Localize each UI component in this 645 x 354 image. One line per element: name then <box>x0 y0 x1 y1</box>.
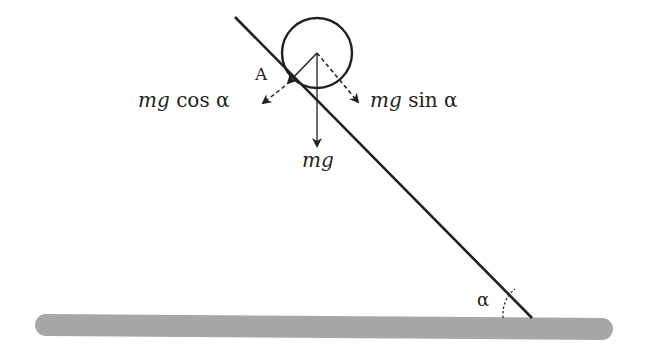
mg-cos-alpha-label: mg cos α <box>138 88 230 112</box>
inclined-plane <box>235 17 532 318</box>
mg-cos-alpha-arrow <box>263 86 285 103</box>
normal-direction-radius <box>288 53 317 83</box>
mg-sin-alpha-label-rest: sin α <box>402 88 458 112</box>
ground-surface <box>46 325 602 329</box>
weight-label: mg <box>302 148 334 172</box>
inclined-plane-diagram: A mg cos α mg sin α mg α <box>0 0 645 354</box>
mg-sin-alpha-label: mg sin α <box>370 88 458 112</box>
mg-cos-alpha-label-mg: mg <box>138 88 170 112</box>
angle-label: α <box>477 289 489 310</box>
contact-point-label: A <box>254 64 268 84</box>
mg-cos-alpha-label-rest: cos α <box>170 88 230 112</box>
mg-sin-alpha-label-mg: mg <box>370 88 402 112</box>
